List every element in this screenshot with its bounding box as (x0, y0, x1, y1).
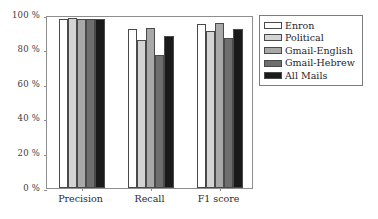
plot-area: 0 %20 %40 %60 %80 %100 % (47, 17, 252, 188)
y-axis-tick-mark (44, 155, 47, 156)
y-axis-tick-label: 100 % (12, 11, 40, 20)
legend-item: Gmail-Hebrew (264, 57, 358, 70)
bar-group (128, 17, 174, 188)
legend-label: Gmail-English (285, 46, 353, 56)
legend-item: Political (264, 32, 358, 45)
legend-item: All Mails (264, 69, 358, 82)
bar (77, 19, 86, 188)
chart-legend: EnronPoliticalGmail-EnglishGmail-HebrewA… (259, 15, 363, 86)
y-axis-tick-label: 80 % (18, 45, 40, 54)
bar-chart-figure: 0 %20 %40 %60 %80 %100 % EnronPoliticalG… (0, 0, 378, 219)
bar (215, 23, 224, 188)
legend-item: Gmail-English (264, 44, 358, 57)
y-axis-tick-label: 60 % (18, 80, 40, 89)
legend-swatch (264, 47, 282, 54)
y-axis-tick-mark (44, 51, 47, 52)
y-axis-tick-label: 40 % (18, 114, 40, 123)
bar-group-bars (128, 17, 174, 188)
bar (155, 55, 164, 188)
x-axis-tick-mark (151, 188, 152, 191)
bar-group (59, 17, 105, 188)
y-axis-tick-label: 20 % (18, 149, 40, 158)
legend-item: Enron (264, 19, 358, 32)
legend-swatch (264, 72, 282, 79)
legend-swatch (264, 34, 282, 41)
y-axis-tick-mark (44, 86, 47, 87)
bar (197, 24, 206, 188)
x-axis-category-label: F1 score (159, 194, 279, 204)
bar (146, 28, 155, 188)
x-axis-tick-mark (220, 188, 221, 191)
bar (128, 29, 137, 188)
bar (164, 36, 173, 188)
bar-group-bars (59, 17, 105, 188)
bar (86, 19, 95, 188)
legend-swatch (264, 22, 282, 29)
legend-label: Enron (285, 21, 314, 31)
legend-swatch (264, 60, 282, 67)
legend-label: Gmail-Hebrew (285, 58, 355, 68)
plot-frame: 0 %20 %40 %60 %80 %100 % (46, 16, 253, 189)
legend-label: All Mails (285, 71, 327, 81)
bar (59, 19, 68, 188)
y-axis-tick-mark (44, 120, 47, 121)
y-axis-tick-mark (44, 190, 47, 191)
bar (95, 19, 104, 188)
bar (68, 18, 77, 188)
bar (233, 29, 242, 189)
bar (224, 38, 233, 188)
legend-label: Political (285, 33, 324, 43)
y-axis-tick-mark (44, 17, 47, 18)
bar (137, 40, 146, 188)
y-axis-tick-label: 0 % (23, 184, 40, 193)
x-axis-tick-mark (82, 188, 83, 191)
bar (206, 31, 215, 188)
bar-group (197, 17, 243, 188)
bar-group-bars (197, 17, 243, 188)
